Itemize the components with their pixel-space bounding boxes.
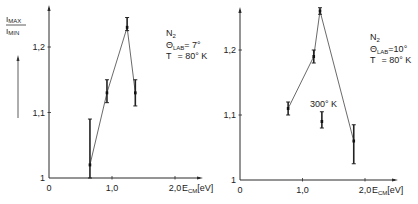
data-point — [106, 91, 109, 94]
y-tick-label: 1,2 — [223, 45, 236, 55]
series-label: 300° K — [310, 99, 337, 109]
y-tick-label: 1,2 — [32, 42, 45, 52]
y-axis-label: IMAX IMIN — [6, 15, 26, 118]
chart-left: 11,11,201,02,0ECM[eV]N2ΘLAB= 7°T= 80° K — [32, 5, 213, 194]
x-axis-arrow-icon — [197, 176, 203, 179]
x-tick-label: 0 — [46, 183, 51, 193]
y-axis-arrow-icon — [47, 5, 50, 11]
data-point — [319, 10, 322, 13]
x-axis-label: ECM[eV] — [182, 183, 213, 194]
data-point — [352, 140, 355, 143]
annotation: N2ΘLAB= 7°T= 80° K — [166, 28, 207, 61]
series-line — [90, 27, 135, 165]
data-point — [126, 26, 129, 29]
svg-text:ΘLAB= 7°: ΘLAB= 7° — [166, 40, 201, 51]
data-point — [134, 91, 137, 94]
figure-canvas: IMAX IMIN 11,11,201,02,0ECM[eV]N2ΘLAB= 7… — [0, 0, 418, 204]
y-tick-label: 1 — [231, 175, 236, 185]
x-tick-label: 2,0 — [359, 185, 372, 195]
svg-text:T= 80° K: T= 80° K — [166, 51, 207, 61]
data-point — [312, 55, 315, 58]
y-tick-label: 1,1 — [32, 108, 45, 118]
data-point — [89, 163, 92, 166]
svg-text:N2: N2 — [370, 32, 381, 43]
data-point — [287, 107, 290, 110]
annotation: N2ΘLAB=10°T= 80° K — [370, 32, 411, 65]
series-1: 300° K — [310, 99, 337, 128]
x-tick-label: 0 — [237, 185, 242, 195]
x-tick-label: 1,0 — [296, 185, 309, 195]
svg-text:IMIN: IMIN — [6, 27, 19, 36]
svg-text:IMAX: IMAX — [6, 15, 21, 24]
chart-right: 11,11,201,02,0ECM[eV]N2ΘLAB=10°T= 80° K3… — [223, 7, 411, 196]
svg-text:ΘLAB=10°: ΘLAB=10° — [370, 44, 408, 55]
y-tick-label: 1,1 — [223, 110, 236, 120]
y-axis-arrow-icon — [238, 7, 241, 13]
x-tick-label: 2,0 — [169, 183, 182, 193]
series-0 — [286, 8, 356, 164]
y-tick-label: 1 — [40, 173, 45, 183]
x-axis-arrow-icon — [392, 178, 398, 181]
data-point — [321, 120, 324, 123]
x-axis-label: ECM[eV] — [372, 185, 403, 196]
svg-text:T= 80° K: T= 80° K — [370, 55, 411, 65]
svg-text:N2: N2 — [166, 28, 177, 39]
x-tick-label: 1,0 — [106, 183, 119, 193]
series-0 — [88, 18, 137, 178]
